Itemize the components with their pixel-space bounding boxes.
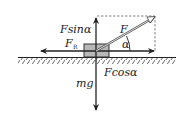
label-f: F bbox=[119, 23, 128, 36]
ground-surface bbox=[18, 58, 176, 65]
label-alpha: α bbox=[122, 38, 130, 51]
label-fcos: Fcosα bbox=[103, 66, 138, 79]
label-fr-subscript: R bbox=[73, 43, 78, 50]
label-mg: mg bbox=[76, 77, 93, 90]
label-fr: F bbox=[64, 37, 73, 50]
force-diagram: Fsinα F F R α mg Fcosα bbox=[0, 0, 191, 122]
label-fsin: Fsinα bbox=[59, 23, 92, 36]
